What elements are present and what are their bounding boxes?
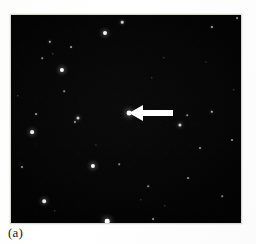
star-point	[118, 163, 120, 165]
star-point	[231, 139, 233, 141]
star-point	[41, 57, 43, 59]
star-point	[199, 147, 201, 149]
star-point	[21, 166, 23, 168]
star-point	[30, 130, 34, 134]
star-point	[187, 177, 189, 179]
star-field-image	[11, 15, 241, 223]
star-point	[103, 31, 107, 35]
star-point	[70, 46, 72, 48]
target-arrow-icon	[129, 103, 175, 123]
star-point	[147, 185, 149, 187]
page-background: (a)	[0, 0, 256, 244]
star-point	[42, 199, 46, 203]
star-point	[221, 195, 223, 197]
star-point	[63, 90, 65, 92]
star-point	[35, 113, 37, 115]
star-point	[105, 219, 110, 223]
emulsion-grain	[11, 15, 241, 223]
star-point	[236, 17, 238, 19]
star-point	[121, 21, 124, 24]
star-point	[152, 218, 154, 220]
star-point	[77, 117, 80, 120]
figure-panel-a	[11, 15, 241, 223]
star-point	[186, 114, 188, 116]
panel-label-a: (a)	[8, 224, 23, 241]
